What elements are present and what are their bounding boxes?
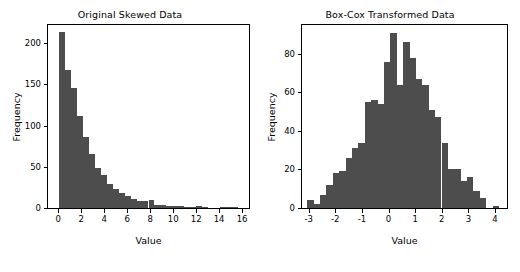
x-tick-label: 1 (412, 214, 417, 224)
x-tick-mark (442, 209, 443, 213)
x-tick-mark (309, 209, 310, 213)
yaxis-label-boxcox: Frequency (266, 92, 277, 141)
x-tick-label: 6 (125, 214, 130, 224)
x-tick-mark (58, 209, 59, 213)
y-tick-mark (44, 43, 48, 44)
x-tick-mark (104, 209, 105, 213)
x-tick-mark (127, 209, 128, 213)
subplot-original-skewed-data: Original Skewed Data 0501001502000246810… (0, 0, 260, 272)
y-tick-label: 0 (257, 203, 295, 213)
yaxis-label-original: Frequency (11, 92, 22, 141)
x-tick-mark (81, 209, 82, 213)
x-tick-mark (389, 209, 390, 213)
x-tick-label: 0 (386, 214, 391, 224)
y-tick-label: 100 (3, 121, 41, 131)
plot-area-original (48, 25, 249, 208)
y-tick-label: 150 (3, 79, 41, 89)
x-tick-mark (495, 209, 496, 213)
y-tick-mark (298, 169, 302, 170)
histogram-bar (480, 198, 486, 208)
histogram-bar (202, 207, 208, 208)
x-tick-label: 2 (79, 214, 84, 224)
x-tick-label: 4 (102, 214, 107, 224)
y-tick-label: 0 (3, 203, 41, 213)
y-tick-mark (44, 126, 48, 127)
y-tick-mark (298, 54, 302, 55)
histogram-bar (493, 206, 499, 208)
y-tick-label: 50 (3, 162, 41, 172)
x-tick-label: 12 (191, 214, 202, 224)
x-tick-label: 3 (466, 214, 471, 224)
axes-original (47, 24, 250, 209)
x-tick-mark (335, 209, 336, 213)
y-tick-label: 80 (257, 49, 295, 59)
x-tick-mark (415, 209, 416, 213)
axes-boxcox (301, 24, 508, 209)
y-tick-mark (44, 208, 48, 209)
histogram-bar (232, 207, 238, 208)
x-tick-label: 0 (56, 214, 61, 224)
subplot-boxcox-transformed-data: Box-Cox Transformed Data 020406080-3-2-1… (260, 0, 520, 272)
panel-title-boxcox: Box-Cox Transformed Data (260, 9, 520, 20)
panel-title-original: Original Skewed Data (0, 9, 260, 20)
x-tick-label: 14 (214, 214, 225, 224)
x-tick-mark (150, 209, 151, 213)
plot-area-boxcox (302, 25, 507, 208)
y-tick-mark (298, 208, 302, 209)
x-tick-mark (362, 209, 363, 213)
y-tick-mark (298, 131, 302, 132)
x-tick-label: 10 (168, 214, 179, 224)
y-tick-label: 200 (3, 38, 41, 48)
x-tick-label: 8 (148, 214, 153, 224)
x-tick-label: -2 (331, 214, 339, 224)
x-tick-mark (196, 209, 197, 213)
x-tick-label: 4 (492, 214, 497, 224)
y-tick-mark (44, 167, 48, 168)
xaxis-label-original: Value (135, 235, 161, 246)
xaxis-label-boxcox: Value (391, 235, 417, 246)
x-tick-label: -3 (304, 214, 312, 224)
x-tick-label: 2 (439, 214, 444, 224)
y-tick-label: 20 (257, 164, 295, 174)
x-tick-mark (242, 209, 243, 213)
x-tick-label: -1 (358, 214, 366, 224)
x-tick-mark (219, 209, 220, 213)
figure-canvas: Original Skewed Data 0501001502000246810… (0, 0, 520, 272)
y-tick-mark (44, 84, 48, 85)
x-tick-mark (173, 209, 174, 213)
x-tick-mark (468, 209, 469, 213)
x-tick-label: 16 (237, 214, 248, 224)
y-tick-mark (298, 92, 302, 93)
